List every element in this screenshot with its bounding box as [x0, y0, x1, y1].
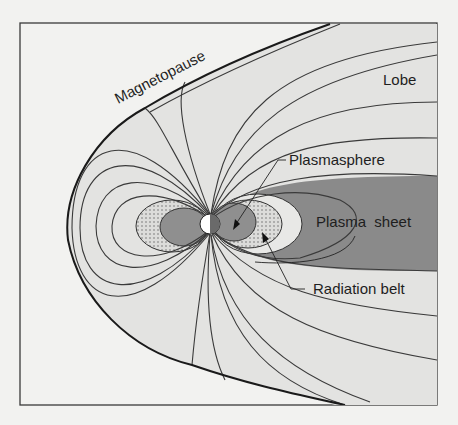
- lobe-label: Lobe: [383, 71, 416, 88]
- earth: [200, 214, 220, 234]
- magnetosphere-diagram: Magnetopause Lobe Plasmasphere Plasma sh…: [0, 0, 458, 425]
- plasma-sheet-label: Plasma sheet: [316, 213, 412, 230]
- radiation-belt-label: Radiation belt: [313, 280, 406, 297]
- plasmasphere-label: Plasmasphere: [289, 151, 385, 168]
